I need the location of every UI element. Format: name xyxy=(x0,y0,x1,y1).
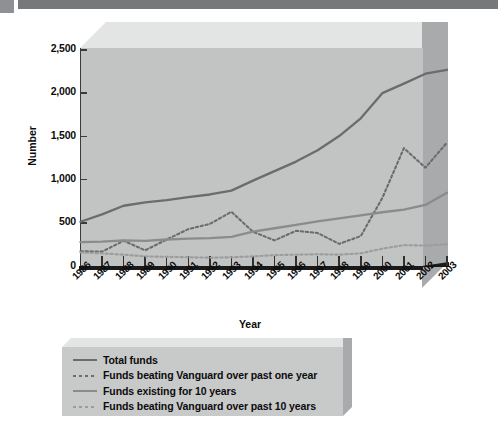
legend-swatch-icon xyxy=(72,370,98,380)
legend-3d-top-panel xyxy=(62,338,352,347)
y-axis-tick-label: 1,000 xyxy=(32,172,76,184)
legend-item: Total funds xyxy=(72,352,343,368)
chart-plot-area xyxy=(80,48,423,267)
legend-item: Funds beating Vanguard over past 10 year… xyxy=(72,399,343,415)
legend-item: Funds beating Vanguard over past one yea… xyxy=(72,368,343,384)
y-axis-tick-mark xyxy=(80,136,87,138)
chart-3d-top-panel xyxy=(80,22,448,48)
legend-3d-right-panel xyxy=(343,338,352,416)
y-axis-title: Number xyxy=(26,106,38,186)
y-axis-tick-mark xyxy=(80,49,87,51)
legend-swatch-icon xyxy=(72,355,98,365)
legend-swatch-icon xyxy=(72,401,98,411)
y-axis-tick-label: 0 xyxy=(32,259,76,271)
legend-item-label: Funds existing for 10 years xyxy=(103,385,236,397)
x-axis-title: Year xyxy=(180,318,320,330)
legend-item: Funds existing for 10 years xyxy=(72,383,343,399)
y-axis-tick-label: 2,500 xyxy=(32,42,76,54)
chart-3d-right-panel xyxy=(422,22,448,288)
y-axis-tick-label: 1,500 xyxy=(32,129,76,141)
chart-legend: Total fundsFunds beating Vanguard over p… xyxy=(62,347,343,416)
legend-swatch-icon xyxy=(72,386,98,396)
y-axis-tick-mark xyxy=(80,179,87,181)
legend-item-label: Funds beating Vanguard over past 10 year… xyxy=(103,400,316,412)
y-axis-tick-label: 500 xyxy=(32,215,76,227)
legend-item-label: Funds beating Vanguard over past one yea… xyxy=(103,369,317,381)
legend-item-label: Total funds xyxy=(103,354,158,366)
y-axis-tick-mark xyxy=(80,92,87,94)
y-axis-tick-label: 2,000 xyxy=(32,85,76,97)
y-axis-tick-mark xyxy=(80,222,87,224)
